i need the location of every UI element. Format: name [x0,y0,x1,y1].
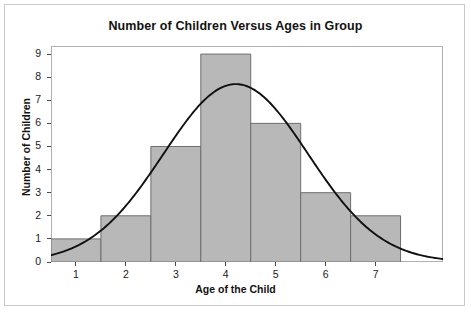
x-tick-label: 2 [111,268,141,280]
x-axis-tick [125,262,126,266]
bar [101,216,151,262]
x-tick-label: 7 [361,268,391,280]
y-axis-tick [47,146,51,147]
x-axis-tick [175,262,176,266]
y-tick-label: 9 [15,47,41,59]
bar [351,216,401,262]
x-axis-tick [225,262,226,266]
x-axis-tick [75,262,76,266]
x-tick-label: 1 [61,268,91,280]
y-tick-label: 6 [15,116,41,128]
y-tick-label: 3 [15,186,41,198]
chart-title: Number of Children Versus Ages in Group [0,19,471,33]
y-axis-tick [47,238,51,239]
y-tick-label: 2 [15,209,41,221]
y-tick-label: 1 [15,232,41,244]
y-tick-label: 8 [15,70,41,82]
x-tick-label: 4 [211,268,241,280]
x-axis-title: Age of the Child [0,283,471,295]
chart-page: Number of Children Versus Ages in Group … [0,0,471,312]
y-axis-tick [47,262,51,263]
y-axis-tick [47,123,51,124]
x-tick-label: 6 [311,268,341,280]
y-axis-tick [47,192,51,193]
y-tick-label: 4 [15,163,41,175]
y-tick-label: 0 [15,255,41,267]
x-axis-tick [275,262,276,266]
y-axis-tick [47,54,51,55]
bar [151,146,201,262]
x-axis-tick [325,262,326,266]
y-axis-tick [47,215,51,216]
bar [251,123,301,262]
x-tick-label: 5 [261,268,291,280]
y-tick-label: 7 [15,93,41,105]
x-tick-label: 3 [161,268,191,280]
bar [51,239,101,262]
y-axis-tick [47,169,51,170]
x-axis-tick [375,262,376,266]
y-axis-tick [47,77,51,78]
y-axis-tick [47,100,51,101]
plot-area [51,46,443,262]
y-tick-label: 5 [15,139,41,151]
